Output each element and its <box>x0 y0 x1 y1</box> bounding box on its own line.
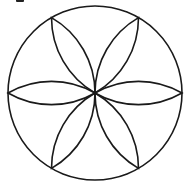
rosette-diagram <box>0 0 189 181</box>
